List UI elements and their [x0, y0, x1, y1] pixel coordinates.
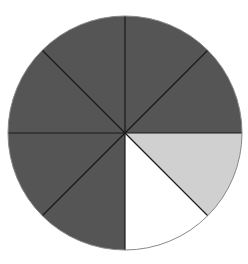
slice-dividers [8, 16, 242, 250]
pie-chart [0, 0, 248, 264]
